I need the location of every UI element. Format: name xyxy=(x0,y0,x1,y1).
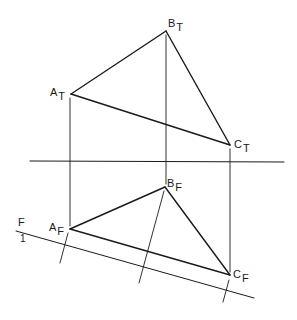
label-a-f: AF xyxy=(49,222,64,233)
label-sub: T xyxy=(58,90,65,102)
fold-label-f: F xyxy=(18,217,25,228)
label-main: A xyxy=(49,221,56,233)
label-main: B xyxy=(168,17,175,29)
edge-af-cf xyxy=(70,229,230,275)
projection-diagram: AT BT CT AF BF CF F 1 xyxy=(0,0,297,320)
projector-af-aux xyxy=(60,233,68,263)
label-sub: F xyxy=(57,225,64,237)
label-sub: F xyxy=(242,272,249,284)
label-c-t: CT xyxy=(234,139,250,150)
label-sub: T xyxy=(243,142,250,154)
diagram-lines xyxy=(0,0,297,320)
label-sub: T xyxy=(176,21,183,33)
label-main: B xyxy=(167,177,174,189)
label-b-f: BF xyxy=(167,178,182,189)
label-b-t: BT xyxy=(168,18,183,29)
label-sub: F xyxy=(175,181,182,193)
fold-line-t-f xyxy=(30,161,284,162)
fold-line-f-1 xyxy=(16,231,254,298)
edge-bf-cf xyxy=(165,187,230,275)
fold-label-1: 1 xyxy=(20,234,26,244)
edge-at-bt xyxy=(71,31,166,94)
label-main: C xyxy=(233,268,241,280)
label-a-t: AT xyxy=(50,87,65,98)
label-main: A xyxy=(50,86,57,98)
label-main: C xyxy=(234,138,242,150)
edge-af-bf xyxy=(70,187,165,229)
label-c-f: CF xyxy=(233,269,249,280)
